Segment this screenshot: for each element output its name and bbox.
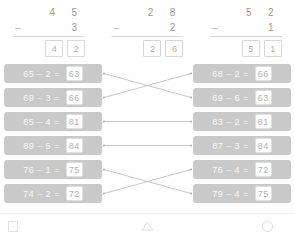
minuend: 76 [212,165,223,175]
right-equation-row-1[interactable]: 68 – 2 = 66 [193,64,291,83]
minus-operator: – [226,69,231,79]
subtrahend-line: 2 [111,21,183,34]
left-equation-row-5[interactable]: 76 – 1 = 75 [4,160,102,179]
minuend: 79 [212,189,223,199]
right-equation-row-4[interactable]: 87 – 3 = 84 [193,136,291,155]
answer-box[interactable]: 66 [255,66,272,81]
home-circle-icon [262,221,273,232]
minuend-tens-digit: 4 [41,6,63,19]
minuend: 89 [23,141,34,151]
subtrahend: 6 [235,93,240,103]
answer-tens-box[interactable]: 4 [45,40,63,57]
answer-box[interactable]: 84 [255,138,272,153]
minus-operator: – [37,117,42,127]
minuend: 76 [23,165,34,175]
minus-operator: – [226,93,231,103]
vertical-problem-3[interactable]: 5 2 – 1 5 1 [197,0,295,60]
equals-sign: = [54,93,60,103]
answer-boxes: 4 2 [13,40,85,58]
system-navigation-bar [0,213,295,238]
minus-operator: – [37,141,42,151]
equals-sign: = [243,141,249,151]
minuend-ones-digit: 5 [63,6,85,19]
minuend-tens-digit: 2 [139,6,161,19]
minus-operator: – [37,69,42,79]
minuend-tens-digit: 5 [238,6,260,19]
equals-sign: = [243,189,249,199]
minuend-line: 4 5 [13,6,85,19]
subtrahend: 4 [235,165,240,175]
left-equation-row-6[interactable]: 74 – 2 = 72 [4,184,102,203]
minuend: 69 [212,93,223,103]
subtrahend: 5 [46,141,51,151]
answer-tens-box[interactable]: 5 [242,40,260,57]
minus-operator: – [226,117,231,127]
subtrahend-ones-digit: 1 [260,21,282,34]
minuend: 69 [23,93,34,103]
subtrahend-ones-digit: 3 [63,21,85,34]
answer-box[interactable]: 81 [255,114,272,129]
minus-operator: – [37,165,42,175]
equals-sign: = [243,93,249,103]
answer-box[interactable]: 81 [66,114,83,129]
subtrahend-line: 1 [210,21,282,34]
subtrahend: 4 [46,117,51,127]
right-equation-row-3[interactable]: 83 – 2 = 81 [193,112,291,131]
minuend: 87 [212,141,223,151]
answer-ones-box[interactable]: 6 [165,40,183,57]
minuend: 68 [212,69,223,79]
recents-square-icon [8,221,18,232]
home-button[interactable] [256,216,278,236]
subtrahend-ones-digit: 2 [161,21,183,34]
right-equation-row-2[interactable]: 69 – 6 = 63 [193,88,291,107]
subtrahend: 2 [46,69,51,79]
equals-sign: = [243,69,249,79]
right-equation-row-6[interactable]: 79 – 4 = 75 [193,184,291,203]
equals-sign: = [54,165,60,175]
subtrahend: 3 [46,93,51,103]
right-equation-row-5[interactable]: 76 – 4 = 72 [193,160,291,179]
answer-box[interactable]: 84 [66,138,83,153]
answer-box[interactable]: 75 [66,162,83,177]
vertical-problem-2[interactable]: 2 8 – 2 2 6 [98,0,196,60]
subtrahend-line: 3 [13,21,85,34]
equals-sign: = [243,117,249,127]
answer-box[interactable]: 72 [255,162,272,177]
minus-operator: – [226,165,231,175]
minus-operator: – [226,189,231,199]
answer-box[interactable]: 63 [255,90,272,105]
answer-box[interactable]: 63 [66,66,83,81]
left-equation-row-1[interactable]: 65 – 2 = 63 [4,64,102,83]
minuend-line: 5 2 [210,6,282,19]
minuend-ones-digit: 8 [161,6,183,19]
minus-operator: – [226,141,231,151]
vertical-problems-row: 4 5 – 3 4 2 2 8 – 2 [0,0,295,60]
minuend-ones-digit: 2 [260,6,282,19]
subtrahend: 3 [235,141,240,151]
left-equation-row-4[interactable]: 89 – 5 = 84 [4,136,102,155]
recents-button[interactable] [2,216,24,236]
subtrahend: 2 [46,189,51,199]
equals-sign: = [54,141,60,151]
matching-exercise: 65 – 2 = 63 69 – 3 = 66 85 – 4 = 81 [0,60,295,212]
back-triangle-icon [141,221,154,231]
answer-box[interactable]: 66 [66,90,83,105]
answer-ones-box[interactable]: 1 [264,40,282,57]
left-equation-row-3[interactable]: 85 – 4 = 81 [4,112,102,131]
back-button[interactable] [136,216,158,236]
equals-sign: = [243,165,249,175]
problem-rule [111,36,183,37]
answer-box[interactable]: 75 [255,186,272,201]
subtrahend: 4 [235,189,240,199]
subtrahend: 2 [235,69,240,79]
vertical-problem-1[interactable]: 4 5 – 3 4 2 [0,0,98,60]
equals-sign: = [54,117,60,127]
answer-box[interactable]: 72 [66,186,83,201]
left-equation-row-2[interactable]: 69 – 3 = 66 [4,88,102,107]
answer-boxes: 5 1 [210,40,282,58]
answer-ones-box[interactable]: 2 [67,40,85,57]
answer-tens-box[interactable]: 2 [143,40,161,57]
problem-rule [13,36,85,37]
partial-check-mark-icon [232,0,254,7]
answer-boxes: 2 6 [111,40,183,58]
